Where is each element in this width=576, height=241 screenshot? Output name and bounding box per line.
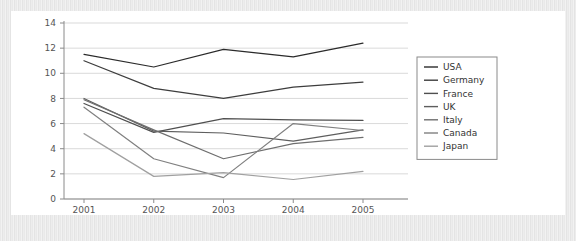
chart-svg: 02468101214 20012002200320042005 USAGerm… xyxy=(11,11,565,215)
legend-label-uk: UK xyxy=(443,102,457,112)
screenshot-root: 02468101214 20012002200320042005 USAGerm… xyxy=(0,0,576,241)
line-chart: 02468101214 20012002200320042005 USAGerm… xyxy=(11,11,565,215)
series-lines-group xyxy=(84,43,363,179)
y-tick-label-8: 8 xyxy=(50,94,56,104)
y-tick-label-14: 14 xyxy=(45,18,57,28)
y-tick-label-6: 6 xyxy=(50,119,56,129)
x-tick-label-2001: 2001 xyxy=(73,205,96,215)
legend-label-germany: Germany xyxy=(443,75,485,85)
y-tick-label-4: 4 xyxy=(50,144,56,154)
chart-legend: USAGermanyFranceUKItalyCanadaJapan xyxy=(417,57,497,159)
chart-card: 02468101214 20012002200320042005 USAGerm… xyxy=(11,11,565,215)
x-tick-label-2004: 2004 xyxy=(282,205,305,215)
y-tick-label-0: 0 xyxy=(50,194,56,204)
x-tick-label-2003: 2003 xyxy=(212,205,235,215)
legend-label-usa: USA xyxy=(443,62,462,72)
x-tick-marks-group xyxy=(84,199,363,203)
x-tick-labels-group: 20012002200320042005 xyxy=(73,205,375,215)
series-line-italy xyxy=(84,100,363,159)
y-tick-label-2: 2 xyxy=(50,169,56,179)
x-tick-label-2005: 2005 xyxy=(352,205,375,215)
y-tick-label-12: 12 xyxy=(45,43,56,53)
y-tick-marks-group xyxy=(60,23,64,199)
frame-bottom-strip xyxy=(0,215,576,241)
y-tick-label-10: 10 xyxy=(45,68,57,78)
series-line-japan xyxy=(84,134,363,180)
legend-label-canada: Canada xyxy=(443,128,477,138)
legend-label-japan: Japan xyxy=(442,141,468,151)
legend-label-france: France xyxy=(443,89,473,99)
x-tick-label-2002: 2002 xyxy=(142,205,165,215)
series-line-usa xyxy=(84,43,363,67)
series-line-germany xyxy=(84,61,363,99)
y-tick-labels-group: 02468101214 xyxy=(45,18,57,204)
legend-label-italy: Italy xyxy=(443,115,463,125)
